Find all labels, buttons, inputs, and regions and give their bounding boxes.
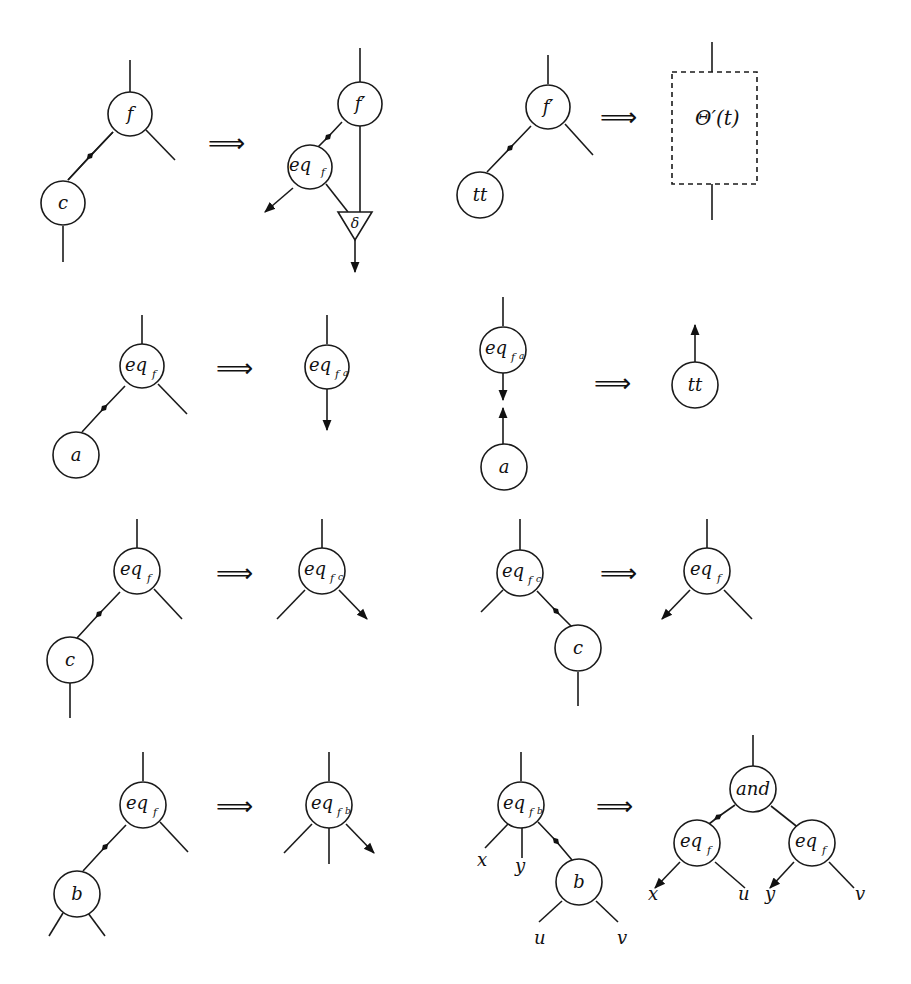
node-eq-fb-sub-b: b xyxy=(345,806,351,816)
rule-4: eq f a a ⟹ tt xyxy=(480,297,718,490)
rewrite-rules-diagram: f c ⟹ f′ eq f δ f′ xyxy=(0,0,911,984)
node-eq-fb-label: eq xyxy=(311,792,333,813)
rule-8-lhs: eq f b x y b u v xyxy=(477,752,627,948)
node-and-label: and xyxy=(736,778,770,799)
rule-6: eq f c c ⟹ eq f xyxy=(481,519,752,706)
node-eq-fb-8-label: eq xyxy=(503,792,525,813)
node-eq-3-label: eq xyxy=(125,354,147,375)
rule-5-lhs: eq f c xyxy=(47,519,182,718)
rule-1-rhs: f′ eq f δ xyxy=(265,48,382,272)
implies-arrow-3: ⟹ xyxy=(216,353,253,383)
node-eq-fa-4-sub-a: a xyxy=(519,351,524,361)
rule-7-rhs: eq f b xyxy=(284,752,374,864)
port-v: v xyxy=(617,927,627,948)
node-eq-fc-label: eq xyxy=(304,558,326,579)
node-eq-7-label: eq xyxy=(126,792,148,813)
node-tt-label: tt xyxy=(473,184,488,205)
implies-arrow-5: ⟹ xyxy=(216,558,253,588)
rule-6-rhs: eq f xyxy=(662,519,752,619)
rule-3-lhs: eq f a xyxy=(53,315,187,478)
node-eq-f-right-label: eq xyxy=(795,830,817,851)
implies-arrow-1: ⟹ xyxy=(208,128,245,158)
rule-2-rhs: Θ′(t) xyxy=(672,42,757,220)
rule-2-lhs: f′ tt xyxy=(457,55,593,218)
port-u: u xyxy=(534,927,546,948)
node-eq-fc-sub-c: c xyxy=(338,572,343,582)
implies-arrow-8: ⟹ xyxy=(596,791,633,821)
rule-4-lhs: eq f a a xyxy=(480,297,527,490)
port-x: x xyxy=(477,849,487,870)
port-x-rhs: x xyxy=(648,883,658,904)
node-a-3-label: a xyxy=(71,444,82,465)
port-y-rhs: y xyxy=(764,883,776,904)
rule-6-lhs: eq f c c xyxy=(481,519,601,706)
node-eq-fc-6-label: eq xyxy=(502,560,524,581)
implies-arrow-6: ⟹ xyxy=(600,558,637,588)
port-y: y xyxy=(514,855,526,876)
rule-5: eq f c ⟹ eq f c xyxy=(47,519,367,718)
rule-3: eq f a ⟹ eq f a xyxy=(53,315,349,478)
node-b-8-label: b xyxy=(573,871,585,892)
rule-7-lhs: eq f b xyxy=(49,752,188,936)
node-eq-fc-6-sub-c: c xyxy=(536,574,541,584)
node-f-prime-2-label: f′ xyxy=(541,96,554,117)
rule-4-rhs: tt xyxy=(672,325,718,408)
theta-label: Θ′(t) xyxy=(695,106,740,130)
node-c-6-label: c xyxy=(573,637,583,658)
rule-2: f′ tt ⟹ Θ′(t) xyxy=(457,42,757,220)
node-c-label: c xyxy=(58,192,68,213)
rule-7: eq f b ⟹ eq f b xyxy=(49,752,374,936)
implies-arrow-2: ⟹ xyxy=(600,102,637,132)
node-eq-fa-label: eq xyxy=(309,354,331,375)
node-eq-f-left-label: eq xyxy=(680,830,702,851)
rule-3-rhs: eq f a xyxy=(305,315,349,430)
rule-8: eq f b x y b u v ⟹ and eq f eq f xyxy=(477,735,865,948)
delta-label: δ xyxy=(351,215,359,231)
node-a-4-label: a xyxy=(499,456,510,477)
node-c-5-label: c xyxy=(65,649,75,670)
node-eq-fb-8-sub-b: b xyxy=(537,806,543,816)
implies-arrow-7: ⟹ xyxy=(216,791,253,821)
rule-1-lhs: f c xyxy=(41,60,175,262)
node-eq-fa-4-label: eq xyxy=(485,337,507,358)
node-eq-f-6-label: eq xyxy=(690,558,712,579)
node-eq-5-label: eq xyxy=(120,558,142,579)
node-f-prime-label: f′ xyxy=(353,93,366,114)
rule-1: f c ⟹ f′ eq f δ xyxy=(41,48,382,272)
node-tt-4-label: tt xyxy=(688,374,703,395)
rule-8-rhs: and eq f eq f x u y v xyxy=(648,735,865,904)
implies-arrow-4: ⟹ xyxy=(594,368,631,398)
node-eq-fa-sub-a: a xyxy=(343,368,348,378)
port-u-rhs: u xyxy=(738,883,750,904)
node-b-7-label: b xyxy=(71,883,83,904)
node-eq-label: eq xyxy=(289,154,311,175)
port-v-rhs: v xyxy=(855,883,865,904)
rule-5-rhs: eq f c xyxy=(277,519,367,619)
